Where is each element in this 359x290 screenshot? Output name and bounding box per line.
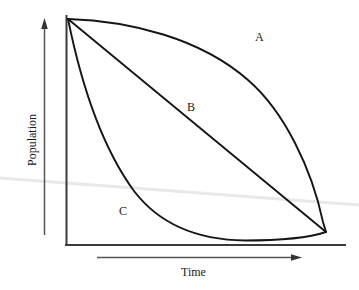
figure-canvas — [0, 0, 359, 290]
y-axis-label: Population — [26, 114, 38, 166]
curve-label-c: C — [119, 205, 127, 217]
scan-artifact-streak — [0, 178, 359, 205]
x-axis-label: Time — [181, 266, 206, 278]
curve-label-a: A — [255, 31, 264, 43]
population-decline-figure: A B C Population Time — [0, 0, 359, 290]
time-direction-arrow — [97, 254, 302, 261]
curve-b-path — [68, 19, 326, 232]
population-direction-arrow — [41, 18, 48, 235]
curve-label-b: B — [187, 101, 195, 113]
